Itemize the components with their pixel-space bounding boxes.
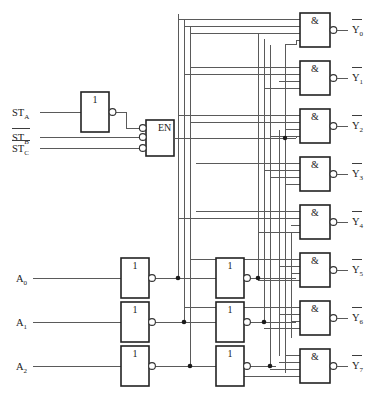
a0-junction-right xyxy=(256,276,261,281)
output-and-gate-5: & xyxy=(300,253,348,287)
st-b-base: ST xyxy=(12,132,25,143)
port-label-y0: Y0 xyxy=(352,20,364,39)
and-gate-4-bubble xyxy=(330,219,337,226)
st-c-sub: C xyxy=(24,149,29,157)
enable-label: EN xyxy=(158,122,171,133)
port-label-y7: Y7 xyxy=(352,356,364,375)
and-gate-3-symbol: & xyxy=(311,159,319,170)
enable-gate-bubble-2 xyxy=(139,134,146,141)
a2-sub: 2 xyxy=(24,367,28,375)
output-and-gate-1: & xyxy=(300,61,348,95)
port-label-a2: A2 xyxy=(16,361,28,375)
inverter-strobe-a-label: 1 xyxy=(93,94,98,105)
svg-text:Y4: Y4 xyxy=(352,216,364,230)
svg-text:STA: STA xyxy=(12,107,29,121)
a0-sub: 0 xyxy=(24,279,28,287)
output-and-gate-7: & xyxy=(300,349,348,383)
inverter-a0-stage2-bubble xyxy=(244,275,251,282)
inverter-a2-stage2-bubble xyxy=(244,363,251,370)
svg-text:Y0: Y0 xyxy=(352,24,364,38)
output-and-gate-0: & xyxy=(300,13,348,47)
a1-junction-left xyxy=(182,320,187,325)
and-gate-7-bubble xyxy=(330,363,337,370)
inverter-a2-stage2-label: 1 xyxy=(228,348,233,359)
left-vertical-bus xyxy=(178,14,190,366)
st-a-base: ST xyxy=(12,107,25,118)
and-gate-1-bubble xyxy=(330,75,337,82)
inverter-a1-stage2: 1 xyxy=(216,302,250,342)
svg-text:Y3: Y3 xyxy=(352,168,364,182)
y7-sub: 7 xyxy=(360,366,364,374)
inverter-a1-stage2-label: 1 xyxy=(228,304,233,315)
inverter-a2-stage1-label: 1 xyxy=(133,348,138,359)
and-gate-0-bubble xyxy=(330,27,337,34)
gate-feeder-verticals xyxy=(279,44,291,373)
logic-diagram-canvas: 1 EN 1 1 1 xyxy=(0,0,375,404)
enable-gate-bubble-1 xyxy=(139,125,146,132)
y6-sub: 6 xyxy=(360,318,364,326)
inverter-a0-stage2: 1 xyxy=(216,258,250,298)
svg-text:Y1: Y1 xyxy=(352,72,364,86)
a2-junction-right xyxy=(268,364,273,369)
enable-junction-dot xyxy=(283,136,287,140)
inverter-a0-stage1: 1 xyxy=(121,258,155,298)
port-label-y6: Y6 xyxy=(352,308,364,327)
inverter-a1-stage1-bubble xyxy=(149,319,156,326)
inverter-a2-stage2: 1 xyxy=(216,346,250,386)
svg-text:Y7: Y7 xyxy=(352,360,364,374)
st-b-sub: B xyxy=(24,138,29,146)
enable-gate-bubble-3 xyxy=(139,145,146,152)
and-gate-3-bubble xyxy=(330,171,337,178)
svg-text:A1: A1 xyxy=(16,317,28,331)
select-a1-net xyxy=(33,320,296,325)
inverter-a1-stage2-bubble xyxy=(244,319,251,326)
and-gate-1-symbol: & xyxy=(311,63,319,74)
a1-sub: 1 xyxy=(24,323,28,331)
inverter-strobe-a-bubble xyxy=(109,109,116,116)
a2-junction-left xyxy=(188,364,193,369)
and-gate-4-symbol: & xyxy=(311,207,319,218)
and-gate-5-bubble xyxy=(330,267,337,274)
a0-junction-left xyxy=(176,276,181,281)
and-gate-6-symbol: & xyxy=(311,303,319,314)
inverter-a2-stage1: 1 xyxy=(121,346,155,386)
port-label-y3: Y3 xyxy=(352,164,364,183)
y5-sub: 5 xyxy=(360,270,364,278)
inverter-a0-stage2-label: 1 xyxy=(228,260,233,271)
st-a-sub: A xyxy=(24,113,29,121)
inverter-a2-stage1-bubble xyxy=(149,363,156,370)
y0-sub: 0 xyxy=(360,30,364,38)
y2-sub: 2 xyxy=(360,126,364,134)
svg-text:A0: A0 xyxy=(16,273,28,287)
inverter-a1-stage1-label: 1 xyxy=(133,304,138,315)
inverter-a1-stage1: 1 xyxy=(121,302,155,342)
a1-junction-right xyxy=(262,320,267,325)
output-and-gate-2: & xyxy=(300,109,348,143)
y1-sub: 1 xyxy=(360,78,364,86)
port-label-y2: Y2 xyxy=(352,116,364,135)
port-label-y1: Y1 xyxy=(352,68,364,87)
port-label-y5: Y5 xyxy=(352,260,364,279)
svg-text:Y5: Y5 xyxy=(352,264,364,278)
output-and-gate-6: & xyxy=(300,301,348,335)
right-vertical-bus xyxy=(258,33,270,366)
svg-text:A2: A2 xyxy=(16,361,28,375)
and-gate-6-bubble xyxy=(330,315,337,322)
schematic-svg: 1 EN 1 1 1 xyxy=(0,0,375,404)
and-gate-5-symbol: & xyxy=(311,255,319,266)
st-c-base: ST xyxy=(12,143,25,154)
port-label-a1: A1 xyxy=(16,317,28,331)
y3-sub: 3 xyxy=(360,174,364,182)
and-gate-0-symbol: & xyxy=(311,15,319,26)
inverter-a0-stage1-label: 1 xyxy=(133,260,138,271)
port-label-y4: Y4 xyxy=(352,212,364,231)
output-and-gate-4: & xyxy=(300,205,348,239)
port-label-st-a: STA xyxy=(12,107,29,121)
and-gate-2-bubble xyxy=(330,123,337,130)
svg-text:Y6: Y6 xyxy=(352,312,364,326)
y4-sub: 4 xyxy=(360,222,364,230)
select-a0-net xyxy=(33,276,296,281)
port-label-a0: A0 xyxy=(16,273,28,287)
and-gate-7-symbol: & xyxy=(311,351,319,362)
inverter-strobe-a: 1 xyxy=(81,92,116,132)
